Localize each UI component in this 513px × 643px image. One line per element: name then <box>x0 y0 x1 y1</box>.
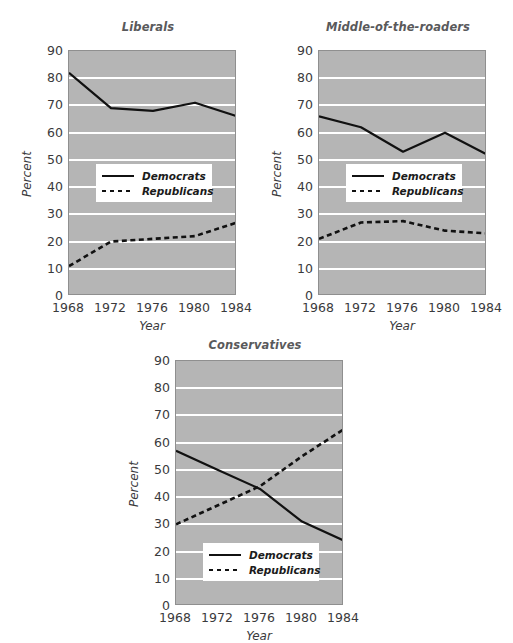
legend-label-democrats: Democrats <box>142 170 206 182</box>
y-axis-tick-40: 40 <box>47 179 63 194</box>
legend-label-republicans: Republicans <box>142 185 213 197</box>
y-axis-label-middle-of-the-roaders: Percent <box>270 151 284 197</box>
legend-conservatives: DemocratsRepublicans <box>203 543 319 581</box>
y-axis-tick-10: 10 <box>297 260 313 275</box>
legend-liberals: DemocratsRepublicans <box>96 164 212 202</box>
y-axis-tick-70: 70 <box>297 97 313 112</box>
x-axis-tick-1968: 1968 <box>302 300 334 315</box>
y-axis-tick-50: 50 <box>47 151 63 166</box>
series-line-republicans <box>319 221 486 239</box>
x-axis-label-liberals: Year <box>68 319 236 333</box>
x-axis-tick-1976: 1976 <box>243 610 275 625</box>
x-axis-tick-1980: 1980 <box>285 610 317 625</box>
y-axis-tick-10: 10 <box>154 570 170 585</box>
y-axis-tick-20: 20 <box>297 233 313 248</box>
y-axis-tick-90: 90 <box>47 43 63 58</box>
chart-panel-middle-of-the-roaders: Middle-of-the-roaders 010203040506070809… <box>268 20 504 320</box>
legend-label-republicans: Republicans <box>392 185 463 197</box>
legend-label-democrats: Democrats <box>392 170 456 182</box>
y-axis-tick-50: 50 <box>297 151 313 166</box>
legend-swatch-democrats-icon <box>209 550 241 560</box>
y-axis-tick-30: 30 <box>297 206 313 221</box>
y-axis-tick-20: 20 <box>47 233 63 248</box>
x-axis-label-conservatives: Year <box>175 629 343 643</box>
y-axis-tick-30: 30 <box>47 206 63 221</box>
legend-swatch-republicans-icon <box>352 186 384 196</box>
chart-title-middle-of-the-roaders: Middle-of-the-roaders <box>298 20 498 34</box>
x-axis-tick-1972: 1972 <box>344 300 376 315</box>
y-axis-tick-60: 60 <box>297 124 313 139</box>
legend-swatch-democrats-icon <box>102 171 134 181</box>
series-line-republicans <box>176 429 343 524</box>
series-line-democrats <box>176 451 343 541</box>
x-axis-tick-1972: 1972 <box>201 610 233 625</box>
y-axis-tick-80: 80 <box>47 70 63 85</box>
legend-item-democrats: Democrats <box>209 547 311 562</box>
legend-label-republicans: Republicans <box>249 564 320 576</box>
series-line-democrats <box>319 116 486 154</box>
x-axis-label-middle-of-the-roaders: Year <box>318 319 486 333</box>
y-axis-tick-80: 80 <box>297 70 313 85</box>
chart-title-liberals: Liberals <box>48 20 248 34</box>
legend-item-republicans: Republicans <box>352 183 454 198</box>
x-axis-tick-1976: 1976 <box>136 300 168 315</box>
x-axis-tick-1980: 1980 <box>178 300 210 315</box>
series-line-democrats <box>69 73 236 117</box>
y-axis-tick-20: 20 <box>154 543 170 558</box>
legend-swatch-republicans-icon <box>102 186 134 196</box>
x-axis-tick-1968: 1968 <box>159 610 191 625</box>
x-axis-tick-1980: 1980 <box>428 300 460 315</box>
chart-title-conservatives: Conservatives <box>155 338 355 352</box>
y-axis-label-conservatives: Percent <box>127 461 141 507</box>
y-axis-tick-90: 90 <box>154 353 170 368</box>
legend-item-democrats: Democrats <box>102 168 204 183</box>
y-axis-tick-30: 30 <box>154 516 170 531</box>
x-axis-tick-1972: 1972 <box>94 300 126 315</box>
y-axis-tick-70: 70 <box>154 407 170 422</box>
x-axis-tick-1976: 1976 <box>386 300 418 315</box>
legend-swatch-republicans-icon <box>209 565 241 575</box>
chart-panel-conservatives: Conservatives 01020304050607080901968197… <box>125 338 361 633</box>
y-axis-tick-40: 40 <box>154 489 170 504</box>
legend-item-democrats: Democrats <box>352 168 454 183</box>
y-axis-tick-80: 80 <box>154 380 170 395</box>
y-axis-tick-70: 70 <box>47 97 63 112</box>
y-axis-tick-90: 90 <box>297 43 313 58</box>
legend-label-democrats: Democrats <box>249 549 313 561</box>
legend-item-republicans: Republicans <box>209 562 311 577</box>
y-axis-tick-50: 50 <box>154 461 170 476</box>
series-line-republicans <box>69 223 236 267</box>
x-axis-tick-1968: 1968 <box>52 300 84 315</box>
y-axis-tick-60: 60 <box>154 434 170 449</box>
y-axis-tick-10: 10 <box>47 260 63 275</box>
x-axis-tick-1984: 1984 <box>220 300 252 315</box>
legend-item-republicans: Republicans <box>102 183 204 198</box>
y-axis-tick-40: 40 <box>297 179 313 194</box>
legend-middle-of-the-roaders: DemocratsRepublicans <box>346 164 462 202</box>
x-axis-tick-1984: 1984 <box>470 300 502 315</box>
y-axis-tick-60: 60 <box>47 124 63 139</box>
y-axis-label-liberals: Percent <box>20 151 34 197</box>
x-axis-tick-1984: 1984 <box>327 610 359 625</box>
legend-swatch-democrats-icon <box>352 171 384 181</box>
chart-panel-liberals: Liberals 0102030405060708090196819721976… <box>18 20 250 320</box>
